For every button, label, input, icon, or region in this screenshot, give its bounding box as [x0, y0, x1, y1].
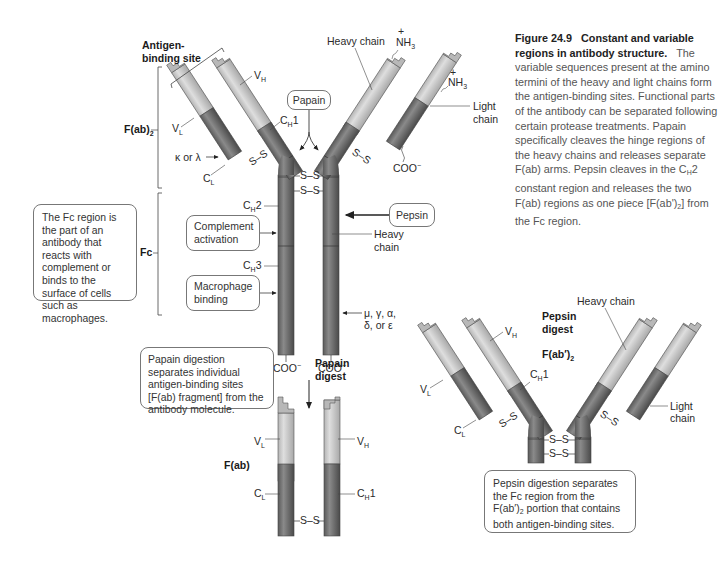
right-heavy-chain-stem	[323, 175, 339, 355]
pepsin-vl-label: VL	[420, 383, 431, 397]
papain-text: Papain	[293, 94, 326, 107]
isotypes-label-1: μ, γ, α,	[364, 307, 396, 319]
fab-cl-label: CL	[254, 487, 266, 501]
fc-bracket	[158, 193, 162, 315]
nh3-heavy-label: NH3	[396, 36, 415, 50]
hinge-disulfide-1: S–S	[300, 169, 320, 181]
papain-enzyme-label: Papain	[287, 90, 331, 110]
left-coo-label: COO−	[273, 362, 301, 374]
pepsin-cl-label: CL	[454, 424, 466, 438]
left-heavy-chain-stem	[278, 175, 294, 355]
pepsin-digest-note: Pepsin digestion separates the Fc region…	[484, 470, 636, 533]
antigen-binding-label-2: binding site	[142, 52, 201, 64]
light-chain-coo-label: COO−	[393, 162, 421, 174]
papain-digest-label-2: digest	[315, 370, 346, 382]
papain-note-text: Papain digestion separates individual an…	[148, 354, 264, 415]
fab-vl-label: VL	[254, 435, 265, 449]
pepsin-light-chain-label-1: Light	[670, 400, 693, 412]
figure-caption: Figure 24.9 Constant and variable region…	[515, 31, 720, 229]
right-lh-disulfide: S–S	[350, 145, 373, 166]
pepsin-vh-label: VH	[505, 325, 517, 339]
intact-antibody: S–S S–S S–S S–S COO− COO− COO− Antigen- …	[124, 25, 498, 374]
pepsin-enzyme-label: Pepsin	[389, 203, 435, 227]
svg-text:S–S: S–S	[598, 407, 621, 428]
light-chain-label-1: Light	[473, 100, 496, 112]
pepsin-text: Pepsin	[396, 209, 428, 222]
pepsin-light-chain-label-2: chain	[670, 412, 695, 424]
hinge-disulfide-2: S–S	[300, 184, 320, 196]
heavy-chain-side-label-1: Heavy	[374, 228, 405, 240]
fab-fragment: S–S VL VH CL CH1 F(ab)	[224, 397, 376, 536]
fab-disulfide: S–S	[300, 514, 320, 526]
fab2-label: F(ab)2	[124, 123, 154, 137]
ch2-label: CH2	[243, 199, 262, 213]
nh3-light-label: NH3	[448, 76, 467, 90]
fab-ch1-label: CH1	[357, 487, 376, 501]
papain-digest-note: Papain digestion separates individual an…	[140, 347, 274, 409]
complement-activation-box: Complementactivation	[186, 215, 260, 251]
heavy-chain-top-label: Heavy chain	[327, 35, 385, 47]
macrophage-line-1: Macrophage	[194, 280, 252, 293]
macrophage-binding-box: Macrophagebinding	[186, 275, 260, 311]
pepsin-digest-label-2: digest	[542, 323, 573, 335]
fc-label: Fc	[140, 246, 152, 258]
pepsin-digest-label-1: Pepsin	[542, 310, 576, 322]
cl-label: CL	[203, 172, 215, 186]
fab2-disulfide-1: S–S	[549, 433, 569, 445]
fc-region-note: The Fc region is the part of an antibody…	[33, 204, 137, 301]
fab2-prime-label: F(ab′)2	[542, 348, 574, 362]
kappa-lambda-label: κ or λ	[175, 151, 201, 163]
pepsin-heavy-chain-label: Heavy chain	[577, 295, 635, 307]
heavy-chain-side-label-2: chain	[374, 241, 399, 253]
nh3-heavy-charge: +	[398, 25, 404, 37]
fab2-fragment: S–S S–S S–S S–S Pepsin digest F(ab′)2 He…	[418, 295, 702, 463]
vl-label: VL	[172, 122, 183, 136]
fab-label: F(ab)	[224, 459, 250, 471]
caption-body: The variable sequences present at the am…	[515, 47, 717, 176]
fab2-disulfide-2: S–S	[549, 447, 569, 459]
isotypes-label-2: δ, or ε	[364, 319, 393, 331]
vh-label: VH	[254, 69, 266, 83]
left-lh-disulfide: S–S	[246, 147, 269, 168]
nh3-light-charge: +	[450, 66, 456, 78]
caption-figure-number: Figure 24.9	[515, 32, 572, 44]
fab2-bracket	[158, 67, 162, 188]
pepsin-ch1-label: CH1	[530, 368, 549, 382]
papain-digest-label-1: Papain	[315, 357, 349, 369]
ch3-label: CH3	[243, 259, 262, 273]
complement-line-2: activation	[194, 233, 254, 246]
fab-vh-label: VH	[357, 435, 369, 449]
antigen-binding-label-1: Antigen-	[142, 39, 185, 51]
complement-line-1: Complement	[194, 220, 254, 233]
light-chain-label-2: chain	[473, 113, 498, 125]
ch1-label: CH1	[280, 114, 299, 128]
macrophage-line-2: binding	[194, 293, 252, 306]
svg-text:S–S: S–S	[496, 409, 519, 430]
